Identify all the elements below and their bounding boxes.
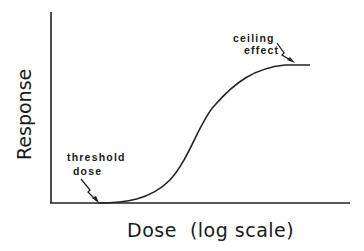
dose-response-diagram: Response Dose (log scale) threshold dose… [0,0,364,251]
ceiling-label-line1: ceiling [233,32,275,44]
ceiling-label-line2: effect [244,44,279,56]
ceiling-arrow-icon [277,43,295,63]
threshold-label-line1: threshold [67,151,126,163]
threshold-label-line2: dose [73,165,102,177]
x-axis-label: Dose (log scale) [127,219,294,241]
dose-response-curve [98,65,310,203]
threshold-arrow-icon [81,179,99,203]
y-axis-label: Response [13,69,35,160]
